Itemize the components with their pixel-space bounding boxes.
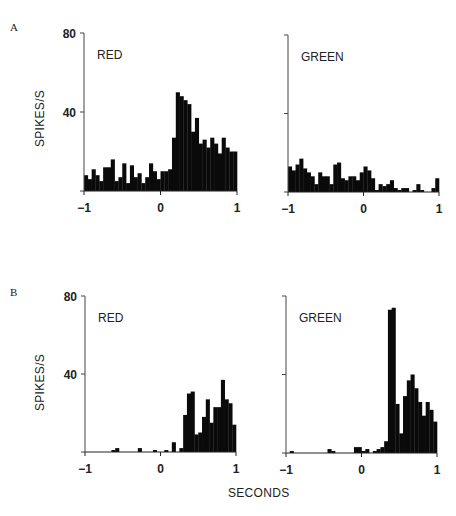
histogram-bar <box>418 402 422 453</box>
histogram-bar <box>384 441 388 453</box>
x-tick-label: 0 <box>358 463 365 477</box>
histogram-bar <box>354 447 358 453</box>
histogram-bar <box>392 308 396 453</box>
histogram-bar <box>395 404 399 453</box>
x-tick-label: −1 <box>279 463 293 477</box>
histogram-bar <box>411 375 415 454</box>
histogram-bar <box>399 433 403 453</box>
histogram-bar <box>422 416 426 453</box>
histogram-bars <box>290 308 438 453</box>
histogram-bar <box>429 410 433 453</box>
histogram-bar <box>407 380 411 453</box>
histogram-bar <box>388 310 392 453</box>
histogram-bar <box>403 396 407 453</box>
histogram-bar <box>414 388 418 453</box>
condition-label: GREEN <box>299 311 342 325</box>
x-tick-label: 1 <box>434 463 441 477</box>
histogram-bar <box>426 402 430 453</box>
histogram-bar <box>433 422 437 453</box>
histogram-bar <box>380 447 384 453</box>
histogram-bar <box>358 447 362 453</box>
